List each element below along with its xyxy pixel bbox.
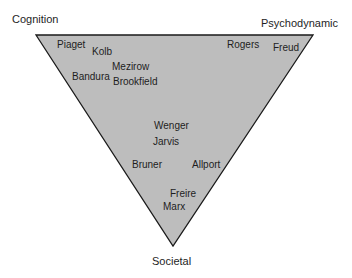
- theorist-label-freire: Freire: [170, 189, 196, 199]
- theorist-label-kolb: Kolb: [92, 47, 112, 57]
- theorist-label-allport: Allport: [192, 160, 220, 170]
- theorist-label-piaget: Piaget: [57, 40, 85, 50]
- corner-label-societal: Societal: [152, 256, 191, 267]
- theorist-label-bandura: Bandura: [72, 72, 110, 82]
- corner-label-psychodynamic: Psychodynamic: [261, 18, 338, 29]
- theorist-label-brookfield: Brookfield: [113, 77, 157, 87]
- theorist-label-freud: Freud: [273, 43, 299, 53]
- theorist-label-wenger: Wenger: [154, 121, 189, 131]
- corner-label-cognition: Cognition: [12, 14, 58, 25]
- theorist-label-jarvis: Jarvis: [153, 137, 179, 147]
- theorist-label-mezirow: Mezirow: [112, 62, 149, 72]
- theorist-label-rogers: Rogers: [227, 40, 259, 50]
- theorist-label-marx: Marx: [163, 202, 185, 212]
- theorist-label-bruner: Bruner: [132, 160, 162, 170]
